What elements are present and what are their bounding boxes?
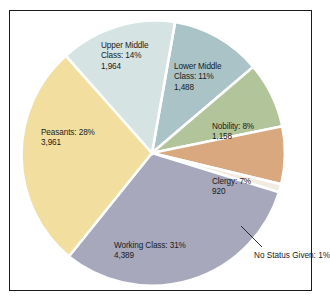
slice-label-no-status-given: No Status Given: 1% <box>254 251 330 261</box>
slice-label-peasants: Peasants: 28% 3,961 <box>41 128 95 149</box>
slice-label-line-3: 1,964 <box>101 62 149 72</box>
slice-label-clergy: Clergy: 7% 920 <box>212 177 251 198</box>
slice-label-lower-middle-class: Lower Middle Class: 11% 1,488 <box>174 62 222 93</box>
slice-label-line-2: 1,158 <box>212 132 254 142</box>
slice-label-upper-middle-class: Upper Middle Class: 14% 1,964 <box>101 41 149 72</box>
slice-label-line-1: Nobility: 8% <box>212 122 254 132</box>
callout-label-line-1: No Status <box>254 251 290 260</box>
slice-label-nobility: Nobility: 8% 1,158 <box>212 122 254 143</box>
slice-label-line-3: 1,488 <box>174 83 222 93</box>
slice-label-line-1: Clergy: 7% <box>212 177 251 187</box>
slice-label-line-1: Lower Middle <box>174 62 222 72</box>
slice-label-line-2: 920 <box>212 187 251 197</box>
slice-label-line-1: Peasants: 28% <box>41 128 95 138</box>
slice-label-line-1: Working Class: 31% <box>114 241 186 251</box>
slice-label-line-2: Class: 11% <box>174 72 222 82</box>
slice-label-working-class: Working Class: 31% 4,389 <box>114 241 186 262</box>
slice-label-line-1: Upper Middle <box>101 41 149 51</box>
slice-label-line-2: 4,389 <box>114 251 186 261</box>
callout-label-line-2: Given: 1% <box>292 251 330 260</box>
slice-label-line-2: Class: 14% <box>101 51 149 61</box>
slice-label-line-2: 3,961 <box>41 138 95 148</box>
